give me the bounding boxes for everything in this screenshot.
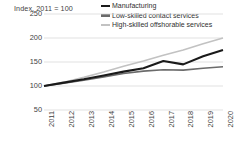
x-axis-tick-label: 2011 [48,111,56,127]
x-axis-tick-label: 2013 [88,111,96,127]
x-axis-tick-labels: 2011201220132014201520162017201820192020 [44,111,223,144]
y-axis-tick-label: 100 [2,82,42,90]
x-axis-tick-label: 2014 [108,111,116,127]
y-axis-tick-labels: 25020015010050 [0,0,42,130]
legend-item-manufacturing[interactable]: Manufacturing [101,2,212,10]
y-axis-tick-label: 50 [2,106,42,114]
plot-svg [44,14,223,110]
y-axis-tick-label: 200 [2,34,42,42]
x-axis-tick-label: 2012 [68,111,76,127]
series-line [44,50,223,86]
y-axis-tick-label: 150 [2,58,42,66]
x-axis-tick-label: 2019 [207,111,215,127]
plot-area [44,14,223,110]
legend-line-swatch-icon [101,5,110,8]
legend-item-label: Manufacturing [112,2,156,10]
x-axis-tick-label: 2020 [227,111,235,127]
y-axis-tick-label: 250 [2,10,42,18]
x-axis-tick-label: 2016 [148,111,156,127]
x-axis-tick-label: 2017 [168,111,176,127]
x-axis-tick-label: 2018 [187,111,195,127]
line-chart: Index, 2011 = 100 Manufacturing Low-skil… [0,0,243,144]
x-axis-tick-label: 2015 [128,111,136,127]
